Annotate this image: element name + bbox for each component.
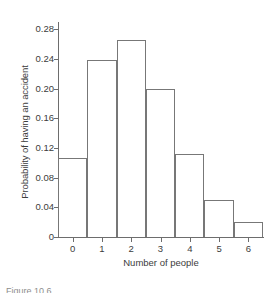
x-tick-label: 1 [92, 243, 112, 254]
y-tick-label: 0.28 [24, 24, 54, 34]
x-tick-mark [161, 238, 162, 242]
y-tick-label: 0.08 [24, 173, 54, 183]
x-tick-mark [73, 238, 74, 242]
plot-area [58, 22, 263, 237]
x-tick-label: 4 [180, 243, 200, 254]
x-tick-label: 5 [209, 243, 229, 254]
bar-3 [146, 89, 175, 237]
y-tick-label: 0.24 [24, 54, 54, 64]
x-tick-mark [190, 238, 191, 242]
y-tick-mark [54, 89, 58, 90]
x-tick-mark [219, 238, 220, 242]
bar-0 [58, 158, 87, 237]
y-tick-label: 0 [24, 232, 54, 242]
x-tick-label: 6 [238, 243, 258, 254]
x-axis-title: Number of people [58, 257, 264, 268]
y-tick-mark [54, 29, 58, 30]
y-tick-mark [54, 237, 58, 238]
y-tick-mark [54, 148, 58, 149]
bar-5 [204, 200, 233, 237]
x-tick-mark [102, 238, 103, 242]
x-tick-mark [248, 238, 249, 242]
bar-4 [175, 154, 204, 237]
x-tick-label: 2 [121, 243, 141, 254]
y-tick-label: 0.04 [24, 202, 54, 212]
y-axis-tick-labels: 00.040.080.120.160.200.240.28 [24, 0, 54, 293]
figure-histogram: Probability of having an accident 00.040… [0, 0, 280, 293]
y-tick-mark [54, 178, 58, 179]
y-tick-label: 0.16 [24, 113, 54, 123]
y-tick-label: 0.12 [24, 143, 54, 153]
bar-2 [117, 40, 146, 237]
x-tick-mark [131, 238, 132, 242]
y-tick-mark [54, 207, 58, 208]
y-tick-mark [54, 59, 58, 60]
bar-1 [87, 60, 116, 237]
y-tick-mark [54, 118, 58, 119]
bar-6 [234, 222, 263, 237]
figure-caption: Figure 10.6 [6, 286, 126, 293]
x-tick-label: 0 [63, 243, 83, 254]
x-tick-label: 3 [151, 243, 171, 254]
y-tick-label: 0.20 [24, 84, 54, 94]
